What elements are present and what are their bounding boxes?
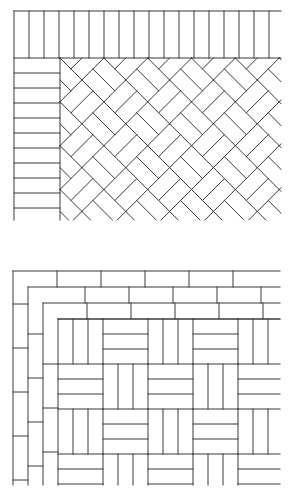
square-basketweave-pattern — [13, 271, 280, 485]
parquet-figure: Parquet floor patterns Diagonal basket-w… — [0, 0, 290, 495]
diagonal-basketweave-pattern — [14, 11, 281, 220]
pattern-drawing — [0, 0, 290, 495]
